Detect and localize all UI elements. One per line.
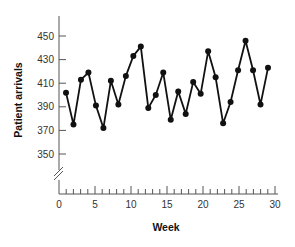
- data-point: [138, 44, 144, 50]
- data-point: [78, 77, 84, 83]
- data-point: [130, 53, 136, 59]
- y-tick-label: 390: [37, 101, 54, 112]
- x-tick-label: 5: [92, 199, 98, 210]
- data-point: [235, 67, 241, 73]
- y-tick-label: 350: [37, 149, 54, 160]
- x-axis-title: Week: [152, 221, 179, 233]
- x-tick-label: 15: [161, 199, 173, 210]
- data-point: [175, 88, 181, 94]
- data-series: [63, 38, 271, 131]
- data-point: [198, 91, 204, 97]
- y-tick-label: 430: [37, 54, 54, 65]
- axis-break-icon: [54, 171, 63, 180]
- data-point: [63, 90, 69, 96]
- data-point: [228, 99, 234, 105]
- data-point: [115, 101, 121, 107]
- data-point: [145, 105, 151, 111]
- data-point: [85, 70, 91, 76]
- data-point: [153, 92, 159, 98]
- data-point: [250, 67, 256, 73]
- data-point: [213, 74, 219, 80]
- data-point: [183, 111, 189, 117]
- data-point: [205, 48, 211, 54]
- line-chart: 350370390410430450 051015202530 Patient …: [0, 0, 295, 247]
- data-point: [243, 38, 249, 44]
- x-tick-label: 30: [269, 199, 281, 210]
- data-point: [100, 125, 106, 131]
- y-tick-label: 450: [37, 31, 54, 42]
- x-tick-label: 20: [197, 199, 209, 210]
- data-point: [265, 65, 271, 71]
- data-point: [258, 101, 264, 107]
- y-tick-label: 410: [37, 78, 54, 89]
- x-tick-label: 25: [233, 199, 245, 210]
- x-tick-label: 10: [125, 199, 137, 210]
- y-axis-title: Patient arrivals: [12, 62, 24, 137]
- data-point: [160, 70, 166, 76]
- data-point: [168, 117, 174, 123]
- y-tick-label: 370: [37, 125, 54, 136]
- data-point: [93, 103, 99, 109]
- data-point: [123, 73, 129, 79]
- x-tick-label: 0: [56, 199, 62, 210]
- data-point: [70, 122, 76, 128]
- data-point: [190, 79, 196, 85]
- y-axis: 350370390410430450: [37, 16, 66, 194]
- data-point: [108, 78, 114, 84]
- x-axis: 051015202530: [56, 186, 281, 210]
- series-line: [66, 41, 268, 128]
- data-point: [220, 120, 226, 126]
